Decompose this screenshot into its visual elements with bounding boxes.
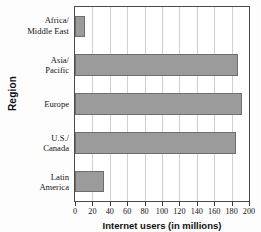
- x-tick-label: 120: [173, 206, 185, 217]
- category-label-line: America: [39, 182, 69, 192]
- x-tick-label: 100: [156, 206, 168, 217]
- bar-slot: [75, 46, 249, 85]
- x-tick-label: 160: [208, 206, 220, 217]
- x-tick-label: 200: [243, 206, 255, 217]
- category-label-line: Asia/: [51, 55, 69, 65]
- bar-slot: [75, 162, 249, 201]
- x-tick-label: 0: [73, 206, 77, 217]
- x-tick-label: 40: [106, 206, 114, 217]
- bar-chart: Region Africa/ Middle East Asia/ Pacific…: [0, 0, 261, 232]
- x-tick-label: 60: [123, 206, 131, 217]
- bar: [75, 132, 236, 154]
- bar: [75, 171, 104, 193]
- x-axis-title: Internet users (in millions): [74, 220, 250, 231]
- bar: [75, 93, 242, 115]
- category-label-line: Latin: [51, 172, 69, 182]
- category-label-line: Middle East: [27, 26, 69, 36]
- category-label-line: Africa/: [45, 15, 69, 25]
- category-label-line: Pacific: [45, 65, 69, 75]
- category-label: Asia/ Pacific: [8, 45, 70, 84]
- plot-area: [74, 6, 250, 202]
- bars-layer: [75, 7, 249, 201]
- category-label-line: Europe: [44, 99, 69, 109]
- y-axis-category-labels: Africa/ Middle East Asia/ Pacific Europe…: [8, 6, 70, 202]
- category-label-line: U.S./: [51, 133, 69, 143]
- bar-slot: [75, 85, 249, 124]
- category-label: Europe: [8, 84, 70, 123]
- x-tick-label: 20: [88, 206, 96, 217]
- category-label: Africa/ Middle East: [8, 6, 70, 45]
- category-label-line: Canada: [43, 143, 69, 153]
- gridline: [249, 7, 250, 201]
- x-tick-label: 180: [225, 206, 237, 217]
- bar-slot: [75, 7, 249, 46]
- category-label: U.S./ Canada: [8, 124, 70, 163]
- bar: [75, 16, 85, 38]
- bar: [75, 54, 238, 76]
- x-tick-label: 140: [191, 206, 203, 217]
- bar-slot: [75, 123, 249, 162]
- x-axis-tick-labels: 020406080100120140160180200: [74, 206, 250, 218]
- category-label: Latin America: [8, 163, 70, 202]
- x-tick-label: 80: [141, 206, 149, 217]
